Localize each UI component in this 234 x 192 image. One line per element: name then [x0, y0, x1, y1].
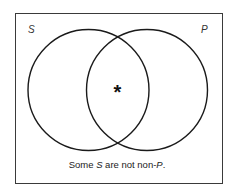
caption-prefix: Some [69, 159, 96, 170]
set-label-p: P [201, 25, 208, 35]
set-label-s: S [28, 25, 35, 35]
circle-p [87, 30, 208, 151]
diagram-caption: Some S are not non-P. [0, 160, 234, 170]
caption-suffix: . [163, 159, 166, 170]
caption-middle: are not non- [102, 159, 156, 170]
existence-asterisk-marker: * [110, 82, 125, 102]
circle-s [28, 30, 149, 151]
